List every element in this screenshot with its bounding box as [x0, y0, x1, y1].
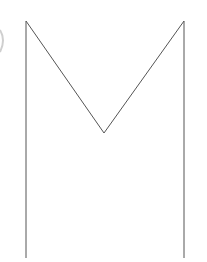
letter-m-diagram — [0, 0, 207, 262]
right-diagonal — [104, 21, 184, 133]
partial-arc — [0, 30, 3, 52]
left-diagonal — [26, 21, 104, 133]
